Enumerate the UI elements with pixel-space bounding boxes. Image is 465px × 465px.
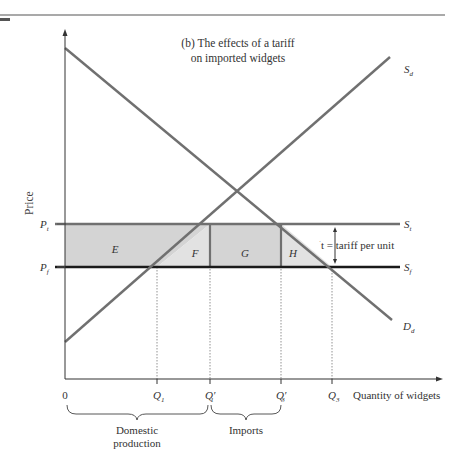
x-axis-label: Quantity of widgets (353, 389, 440, 401)
pt-label: Pt (39, 218, 50, 233)
area-g (210, 224, 281, 267)
q1-label: Q1 (153, 389, 164, 404)
chart-title-line2: on imported widgets (191, 52, 286, 65)
imports-label: Imports (229, 424, 263, 436)
y-axis-arrow-icon (63, 29, 68, 36)
top-rule-marker (0, 18, 10, 21)
area-e-label: E (111, 243, 119, 255)
area-g-label: G (241, 247, 249, 259)
sd-label: Sd (404, 63, 414, 78)
domestic-label-line1: Domestic (116, 424, 158, 436)
q3-label: Q3 (328, 389, 340, 404)
imports-brace (211, 405, 281, 420)
origin-label: 0 (62, 389, 68, 401)
domestic-label-line2: production (113, 437, 161, 449)
supply-curve (65, 57, 390, 342)
area-h-label: H (288, 247, 298, 259)
tariff-down-arrow-icon (333, 259, 337, 264)
tariff-up-arrow-icon (333, 227, 337, 232)
area-f-label: F (191, 247, 199, 259)
x-axis-arrow-icon (436, 377, 443, 382)
demand-curve (65, 48, 392, 320)
y-axis-label: Price (23, 191, 35, 215)
domestic-brace (67, 405, 208, 420)
tariff-diagram: (b) The effects of a tariff on imported … (0, 0, 465, 465)
q1-prime-label: Q′1 (205, 389, 216, 404)
tariff-annotation: ˈt = tariff per unit (319, 239, 394, 251)
sf-label: Sf (404, 261, 413, 276)
pf-label: Pf (39, 261, 50, 276)
chart-title-line1: (b) The effects of a tariff (181, 37, 295, 50)
st-label: St (404, 218, 413, 233)
dd-label: Dd (402, 320, 415, 335)
q3-prime-label: Q′3 (276, 389, 287, 404)
